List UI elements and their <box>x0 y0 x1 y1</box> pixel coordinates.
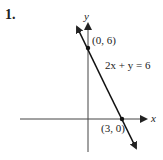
x-axis-label: x <box>151 112 156 124</box>
point-3-0 <box>120 117 124 121</box>
point-label-0-6: (0, 6) <box>92 34 116 46</box>
point-label-3-0: (3, 0) <box>101 122 125 134</box>
point-0-6 <box>86 46 90 50</box>
y-axis-label: y <box>84 10 89 22</box>
graph <box>0 0 163 160</box>
equation-label: 2x + y = 6 <box>105 59 150 71</box>
